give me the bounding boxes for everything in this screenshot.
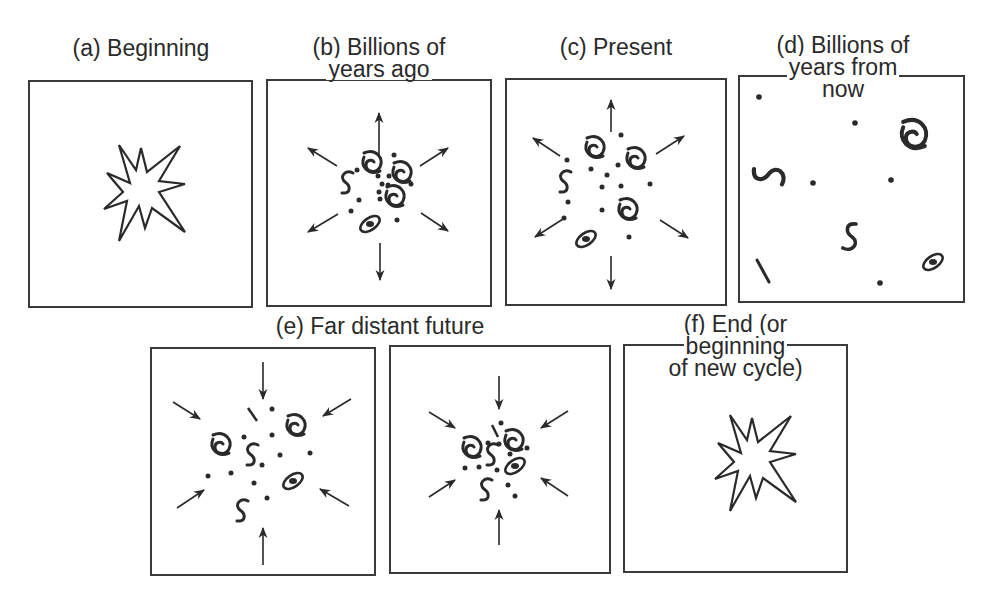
contracting-cluster-e2 (429, 376, 568, 545)
galaxies-e1 (206, 407, 313, 522)
galaxies-d (754, 94, 946, 286)
galaxies-e2 (463, 421, 530, 501)
explosion-icon-a (104, 145, 185, 241)
galaxies-b (342, 152, 414, 236)
explosion-icon-f (715, 415, 796, 511)
expanding-cluster-c (533, 100, 688, 289)
galaxies-c (560, 133, 653, 251)
diagram-drawings (0, 0, 988, 607)
expanding-cluster-b (308, 113, 448, 280)
